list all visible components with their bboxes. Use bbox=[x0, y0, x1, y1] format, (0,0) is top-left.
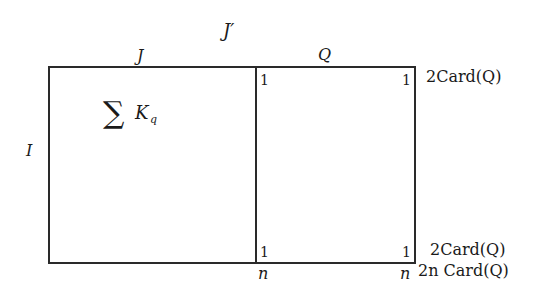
block-matrix-diagram: J′ J Q I ∑ K q 1 1 1 1 n n 2Card(Q) 2Car… bbox=[0, 0, 542, 294]
top-right-one: 1 bbox=[402, 73, 411, 87]
right-bottom-card: 2Card(Q) bbox=[430, 242, 505, 258]
bottom-mid-n: n bbox=[258, 266, 268, 282]
label-j-prime: J′ bbox=[223, 22, 234, 40]
bottom-right-n: n bbox=[400, 266, 410, 282]
right-top-card: 2Card(Q) bbox=[426, 69, 501, 85]
bottom-right-one: 1 bbox=[402, 245, 411, 259]
q-subscript: q bbox=[150, 114, 157, 125]
top-mid-one: 1 bbox=[260, 73, 269, 87]
sigma-symbol: ∑ bbox=[103, 98, 124, 128]
box-left-edge bbox=[48, 66, 50, 264]
box-right-edge bbox=[414, 66, 416, 264]
k-symbol: K bbox=[135, 104, 148, 122]
box-top-edge bbox=[48, 66, 416, 68]
label-j: J bbox=[137, 48, 143, 64]
box-divider bbox=[255, 66, 257, 264]
bottom-mid-one: 1 bbox=[260, 245, 269, 259]
label-i: I bbox=[26, 143, 32, 159]
label-q: Q bbox=[318, 47, 331, 63]
right-lowest-card: 2n Card(Q) bbox=[418, 263, 509, 279]
box-bottom-edge bbox=[48, 262, 416, 264]
